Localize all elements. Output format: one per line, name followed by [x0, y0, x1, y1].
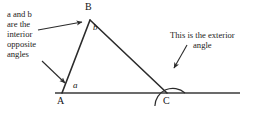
angle-label-a: a: [73, 81, 78, 90]
geometry-diagram: a and b are the interior opposite angles…: [0, 0, 263, 114]
label-layer: a and b are the interior opposite angles…: [0, 0, 263, 114]
vertex-label-c: C: [163, 96, 170, 106]
exterior-note-line-2: angle: [170, 41, 235, 51]
note-line-5: angles: [7, 50, 36, 60]
vertex-label-a: A: [57, 96, 64, 106]
interior-opposite-angles-note: a and b are the interior opposite angles: [7, 10, 36, 60]
angle-label-b: b: [93, 23, 98, 32]
exterior-angle-note: This is the exterior angle: [170, 31, 235, 51]
vertex-label-b: B: [85, 2, 92, 12]
